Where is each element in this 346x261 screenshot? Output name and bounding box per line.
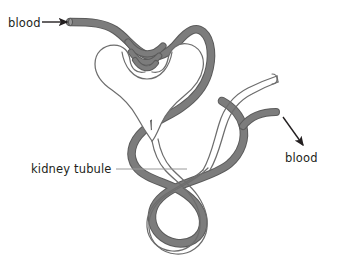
kidney-tubule-label: kidney tubule: [31, 162, 112, 176]
blood-out-label: blood: [285, 151, 318, 165]
blood-in-label: blood: [8, 16, 41, 30]
nephron-diagram: blood blood kidney tubule: [0, 0, 346, 261]
blood-vessel-cut-end: [69, 18, 73, 25]
diagram-background: [0, 0, 346, 261]
diagram-canvas: blood blood kidney tubule: [0, 0, 346, 261]
